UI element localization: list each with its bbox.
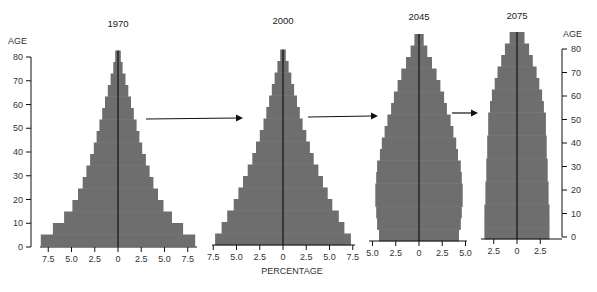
- x-tick-label: 7.5: [346, 252, 359, 262]
- age-tick-label: 50: [13, 123, 23, 133]
- x-tick-label: 2.5: [253, 252, 266, 262]
- x-tick-label: 7.5: [42, 254, 55, 264]
- transition-arrow: [308, 116, 372, 117]
- right-age-label: AGE: [563, 29, 582, 39]
- x-tick-label: 0: [280, 252, 285, 262]
- x-tick-label: 7.5: [181, 254, 194, 264]
- pyramid-title: 1970: [107, 18, 128, 29]
- x-tick-label: 2.5: [436, 248, 449, 258]
- x-tick-label: 5.0: [459, 248, 472, 258]
- x-tick-label: 0: [416, 248, 421, 258]
- age-tick-label: 0: [571, 232, 576, 242]
- x-tick-label: 2.5: [389, 248, 402, 258]
- x-tick-label: 5.0: [65, 254, 78, 264]
- x-tick-label: 7.5: [207, 252, 220, 262]
- age-tick-label: 70: [571, 68, 581, 78]
- population-pyramids-figure: 19707.55.02.502.55.07.520007.55.02.502.5…: [0, 0, 597, 292]
- x-tick-label: 5.0: [366, 248, 379, 258]
- x-tick-label: 5.0: [230, 252, 243, 262]
- age-tick-label: 0: [18, 242, 23, 252]
- x-tick-label: 0: [514, 246, 519, 256]
- pyramid-title: 2075: [506, 10, 527, 21]
- age-tick-label: 30: [571, 162, 581, 172]
- x-tick-label: 2.5: [534, 246, 547, 256]
- age-tick-label: 10: [13, 218, 23, 228]
- transition-arrow: [146, 118, 237, 119]
- pyramid-title: 2000: [272, 15, 293, 26]
- arrow-head-icon: [371, 113, 378, 120]
- x-tick-label: 0: [115, 254, 120, 264]
- age-tick-label: 20: [13, 195, 23, 205]
- x-tick-label: 2.5: [300, 252, 313, 262]
- age-tick-label: 30: [13, 171, 23, 181]
- x-tick-label: 5.0: [323, 252, 336, 262]
- age-tick-label: 60: [13, 100, 23, 110]
- age-tick-label: 60: [571, 91, 581, 101]
- age-tick-label: 20: [571, 185, 581, 195]
- x-tick-label: 2.5: [88, 254, 101, 264]
- age-tick-label: 80: [13, 52, 23, 62]
- left-age-label: AGE: [8, 36, 27, 46]
- age-tick-label: 40: [571, 138, 581, 148]
- age-tick-label: 80: [571, 44, 581, 54]
- age-tick-label: 40: [13, 147, 23, 157]
- age-tick-label: 10: [571, 209, 581, 219]
- pyramid-chart: 19707.55.02.502.55.07.520007.55.02.502.5…: [0, 0, 597, 292]
- x-tick-label: 2.5: [135, 254, 148, 264]
- x-axis-label: PERCENTAGE: [261, 266, 322, 276]
- x-tick-label: 5.0: [158, 254, 171, 264]
- pyramid-title: 2045: [408, 11, 429, 22]
- arrow-head-icon: [236, 115, 243, 122]
- age-tick-label: 70: [13, 76, 23, 86]
- arrow-head-icon: [471, 110, 478, 117]
- age-tick-label: 50: [571, 115, 581, 125]
- x-tick-label: 2.5: [487, 246, 500, 256]
